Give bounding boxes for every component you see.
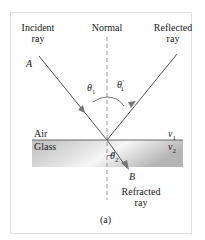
theta1-prime-arc bbox=[107, 97, 124, 106]
point-b-label: B bbox=[129, 171, 135, 182]
glass-label: Glass bbox=[34, 141, 56, 152]
v2-label: v2 bbox=[168, 141, 176, 157]
theta2-label: θ2 bbox=[110, 150, 118, 166]
air-label: Air bbox=[34, 128, 47, 139]
point-a-label: A bbox=[26, 58, 32, 69]
figure-caption: (a) bbox=[100, 214, 111, 225]
reflected-ray-label: Reflected ray bbox=[148, 22, 198, 44]
reflected-ray bbox=[107, 54, 177, 140]
theta1-prime-label: θ′1 bbox=[117, 77, 124, 95]
incident-ray-label: Incident ray bbox=[14, 22, 62, 44]
incident-ray bbox=[39, 56, 107, 140]
theta1-label: θ1 bbox=[87, 82, 95, 98]
refracted-ray-label: Refracted ray bbox=[113, 186, 169, 208]
normal-label: Normal bbox=[85, 22, 129, 33]
reflected-arrowhead bbox=[128, 101, 136, 108]
